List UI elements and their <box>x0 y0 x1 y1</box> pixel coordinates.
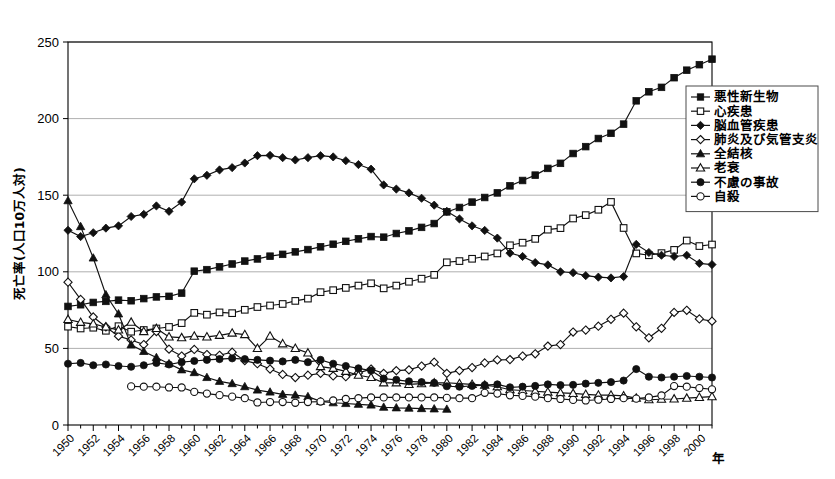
marker-1-1973 <box>355 282 362 289</box>
marker-0-1982 <box>469 199 476 206</box>
marker-1-2000 <box>696 243 703 250</box>
marker-0-1968 <box>292 249 299 256</box>
marker-1-1979 <box>431 272 438 279</box>
marker-7-1973 <box>355 395 362 402</box>
marker-6-1973 <box>355 365 362 372</box>
marker-7-1983 <box>481 389 488 396</box>
marker-0-1995 <box>633 98 640 105</box>
marker-0-1952 <box>90 299 97 306</box>
marker-7-1985 <box>506 392 513 399</box>
marker-6-1995 <box>633 365 640 372</box>
marker-0-1971 <box>330 241 337 248</box>
marker-0-1989 <box>557 160 564 167</box>
marker-1-2001 <box>709 241 716 248</box>
marker-7-1982 <box>468 395 475 402</box>
marker-0-2000 <box>696 61 703 68</box>
y-tick-label-0: 0 <box>52 418 59 433</box>
marker-6-1963 <box>229 355 236 362</box>
marker-1-1963 <box>229 310 236 317</box>
marker-7-2000 <box>696 384 703 391</box>
marker-7-1980 <box>443 394 450 401</box>
marker-0-1992 <box>595 135 602 142</box>
marker-7-1957 <box>153 383 160 390</box>
marker-6-1960 <box>191 357 198 364</box>
marker-7-1974 <box>367 394 374 401</box>
marker-7-1970 <box>317 398 324 405</box>
marker-0-1974 <box>368 233 375 240</box>
legend-label-1: 心疾患 <box>714 104 753 119</box>
marker-7-1978 <box>418 394 425 401</box>
marker-0-1991 <box>582 143 589 150</box>
marker-1-1972 <box>343 285 350 292</box>
legend-label-2: 脳血管疾患 <box>714 118 779 133</box>
marker-0-1985 <box>507 183 514 190</box>
marker-6-1996 <box>645 373 652 380</box>
marker-1-1982 <box>469 255 476 262</box>
marker-7-1963 <box>229 393 236 400</box>
marker-7-1964 <box>241 395 248 402</box>
marker-1-1969 <box>305 295 312 302</box>
marker-0-1986 <box>519 177 526 184</box>
marker-7-1959 <box>178 384 185 391</box>
marker-6-2000 <box>696 373 703 380</box>
marker-0-1998 <box>671 74 678 81</box>
marker-0-1966 <box>267 253 274 260</box>
marker-7-1990 <box>570 396 577 403</box>
marker-1-1986 <box>519 239 526 246</box>
marker-1-1960 <box>191 310 198 317</box>
y-tick-label-50: 50 <box>45 341 59 356</box>
marker-6-1979 <box>431 379 438 386</box>
marker-1-1993 <box>608 199 615 206</box>
marker-0-1954 <box>115 297 122 304</box>
marker-6-1965 <box>254 356 261 363</box>
legend-label-7: 自殺 <box>714 189 740 204</box>
marker-0-1965 <box>254 256 261 263</box>
marker-6-1985 <box>506 384 513 391</box>
marker-1-1978 <box>418 275 425 282</box>
marker-6-1950 <box>64 360 71 367</box>
marker-6-1958 <box>165 361 172 368</box>
marker-0-1975 <box>380 234 387 241</box>
chart-legend[interactable]: 悪性新生物心疾患脳血管疾患肺炎及び気管支炎全結核老衰不慮の事故自殺 <box>686 86 818 212</box>
y-axis-title: 死亡率(人口10万人対) <box>12 167 27 301</box>
legend-label-6: 不慮の事故 <box>714 175 779 190</box>
marker-6-1970 <box>317 356 324 363</box>
marker-1-1950 <box>65 323 72 330</box>
marker-6-1964 <box>241 356 248 363</box>
marker-7-1967 <box>279 398 286 405</box>
marker-0-1984 <box>494 190 501 197</box>
y-tick-label-250: 250 <box>37 35 59 50</box>
marker-0-1990 <box>570 150 577 157</box>
marker-6-1972 <box>342 362 349 369</box>
marker-7-1995 <box>633 395 640 402</box>
marker-0-1987 <box>532 172 539 179</box>
marker-7-1968 <box>292 399 299 406</box>
marker-1-1991 <box>582 212 589 219</box>
marker-0-1978 <box>418 224 425 231</box>
y-tick-label-200: 200 <box>37 111 59 126</box>
marker-6-1954 <box>115 362 122 369</box>
marker-0-1958 <box>166 293 173 300</box>
marker-0-1970 <box>317 244 324 251</box>
marker-1-1975 <box>380 285 387 292</box>
marker-6-1982 <box>468 382 475 389</box>
mortality-line-chart: 050100150200250 195019521954195619581960… <box>0 0 835 479</box>
marker-0-1979 <box>431 220 438 227</box>
marker-0-1981 <box>456 204 463 211</box>
marker-7-1997 <box>658 392 665 399</box>
marker-6-1993 <box>607 379 614 386</box>
marker-6-1955 <box>128 363 135 370</box>
marker-7-1958 <box>165 384 172 391</box>
marker-1-1989 <box>557 225 564 232</box>
marker-6-1984 <box>494 381 501 388</box>
marker-6-1992 <box>595 379 602 386</box>
marker-7-1998 <box>671 383 678 390</box>
marker-1-1966 <box>267 302 274 309</box>
marker-6-1961 <box>203 356 210 363</box>
marker-1-1994 <box>620 225 627 232</box>
x-axis-title: 年 <box>712 451 725 466</box>
marker-0-1957 <box>153 294 160 301</box>
marker-7-1981 <box>456 395 463 402</box>
marker-6-1981 <box>456 383 463 390</box>
marker-6-1969 <box>304 359 311 366</box>
